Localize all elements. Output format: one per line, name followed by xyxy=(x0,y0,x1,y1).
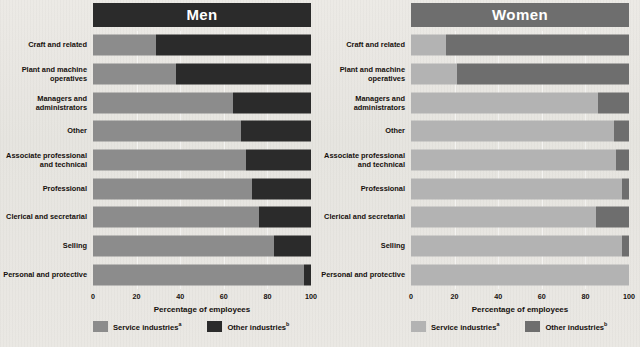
bar-segment-service xyxy=(93,35,156,56)
bar-row: Craft and related xyxy=(411,31,629,60)
bar-segment-service xyxy=(93,63,176,84)
stacked-bar xyxy=(411,63,629,84)
x-tick-label: 20 xyxy=(133,292,141,301)
bar-row-label: Personal and protective xyxy=(255,270,405,280)
bar-segment-service xyxy=(93,92,233,113)
x-axis-men: 020406080100 xyxy=(93,292,311,304)
x-tick-label: 100 xyxy=(305,292,317,301)
bar-segment-other xyxy=(622,235,629,256)
stacked-bar xyxy=(411,92,629,113)
legend-label-other-men: Other industriesb xyxy=(227,321,289,332)
bar-row-label: Professional xyxy=(255,184,405,194)
stacked-bar xyxy=(411,178,629,199)
stacked-bar-figure: Men Craft and relatedPlant and machine o… xyxy=(0,0,640,347)
legend-swatch-service-women xyxy=(411,321,426,332)
bar-row-label: Managers and administrators xyxy=(255,93,405,112)
plot-area-women: Craft and relatedPlant and machine opera… xyxy=(411,31,629,289)
bar-segment-service xyxy=(411,63,457,84)
x-tick-label: 40 xyxy=(176,292,184,301)
bar-row-label: Clerical and secretarial xyxy=(255,213,405,223)
panel-women: Women Craft and relatedPlant and machine… xyxy=(320,0,640,347)
bar-segment-service xyxy=(411,264,629,285)
bar-row-label: Selling xyxy=(255,241,405,251)
bar-segment-other xyxy=(614,121,629,142)
bar-row-label: Managers and administrators xyxy=(0,93,87,112)
x-tick-label: 0 xyxy=(91,292,95,301)
stacked-bar xyxy=(411,207,629,228)
stacked-bar xyxy=(411,149,629,170)
bar-segment-service xyxy=(93,235,274,256)
bar-segment-service xyxy=(93,207,259,228)
bar-row: Associate professional and technical xyxy=(411,146,629,175)
bar-segment-service xyxy=(411,121,614,142)
bar-row: Plant and machine operatives xyxy=(411,60,629,89)
legend-women: Service industriesa Other industriesb xyxy=(411,321,629,332)
bar-segment-service xyxy=(411,35,446,56)
legend-item-service-women: Service industriesa xyxy=(411,321,499,332)
bar-segment-other xyxy=(446,35,629,56)
bar-segment-other xyxy=(598,92,629,113)
bar-row: Personal and protective xyxy=(411,260,629,289)
x-axis-women: 020406080100 xyxy=(411,292,629,304)
bar-segment-service xyxy=(411,178,622,199)
x-tick-label: 60 xyxy=(220,292,228,301)
x-tick-label: 60 xyxy=(538,292,546,301)
x-tick-label: 80 xyxy=(263,292,271,301)
legend-label-service-men: Service industriesa xyxy=(113,321,181,332)
bar-row: Other xyxy=(411,117,629,146)
legend-swatch-other-women xyxy=(525,321,540,332)
legend-men: Service industriesa Other industriesb xyxy=(93,321,311,332)
stacked-bar xyxy=(411,264,629,285)
bar-row-label: Associate professional and technical xyxy=(255,150,405,169)
bar-row: Professional xyxy=(411,174,629,203)
panel-men: Men Craft and relatedPlant and machine o… xyxy=(0,0,320,347)
stacked-bar xyxy=(411,235,629,256)
bar-segment-service xyxy=(411,235,622,256)
bar-row-label: Plant and machine operatives xyxy=(0,64,87,83)
stacked-bar xyxy=(411,121,629,142)
legend-item-other-women: Other industriesb xyxy=(525,321,607,332)
x-tick-label: 40 xyxy=(494,292,502,301)
stacked-bar xyxy=(411,35,629,56)
bar-row-label: Associate professional and technical xyxy=(0,150,87,169)
x-tick-label: 80 xyxy=(581,292,589,301)
bar-row: Managers and administrators xyxy=(411,88,629,117)
bar-row-label: Craft and related xyxy=(0,41,87,51)
bar-row-label: Craft and related xyxy=(255,41,405,51)
bar-row-label: Selling xyxy=(0,241,87,251)
bar-segment-service xyxy=(411,207,596,228)
bar-row-label: Professional xyxy=(0,184,87,194)
legend-item-other-men: Other industriesb xyxy=(207,321,289,332)
x-tick-label: 20 xyxy=(451,292,459,301)
x-axis-title-men: Percentage of employees xyxy=(93,305,311,314)
bar-segment-service xyxy=(93,178,252,199)
x-axis-title-women: Percentage of employees xyxy=(411,305,629,314)
x-tick-label: 0 xyxy=(409,292,413,301)
bar-rows-women: Craft and relatedPlant and machine opera… xyxy=(411,31,629,289)
legend-label-other-women: Other industriesb xyxy=(545,321,607,332)
bar-segment-service xyxy=(93,121,241,142)
legend-item-service-men: Service industriesa xyxy=(93,321,181,332)
legend-label-service-women: Service industriesa xyxy=(431,321,499,332)
bar-row-label: Other xyxy=(0,127,87,137)
legend-swatch-other-men xyxy=(207,321,222,332)
bar-segment-service xyxy=(93,149,246,170)
bar-row: Clerical and secretarial xyxy=(411,203,629,232)
bar-segment-other xyxy=(596,207,629,228)
legend-swatch-service-men xyxy=(93,321,108,332)
bar-segment-other xyxy=(622,178,629,199)
bar-segment-other xyxy=(616,149,629,170)
bar-row-label: Other xyxy=(255,127,405,137)
bar-segment-other xyxy=(457,63,629,84)
bar-segment-service xyxy=(411,149,616,170)
bar-row-label: Personal and protective xyxy=(0,270,87,280)
panel-title-women: Women xyxy=(411,3,629,27)
bar-segment-service xyxy=(411,92,598,113)
bar-row: Selling xyxy=(411,232,629,261)
bar-row-label: Clerical and secretarial xyxy=(0,213,87,223)
bar-row-label: Plant and machine operatives xyxy=(255,64,405,83)
x-tick-label: 100 xyxy=(623,292,635,301)
panel-title-men: Men xyxy=(93,3,311,27)
